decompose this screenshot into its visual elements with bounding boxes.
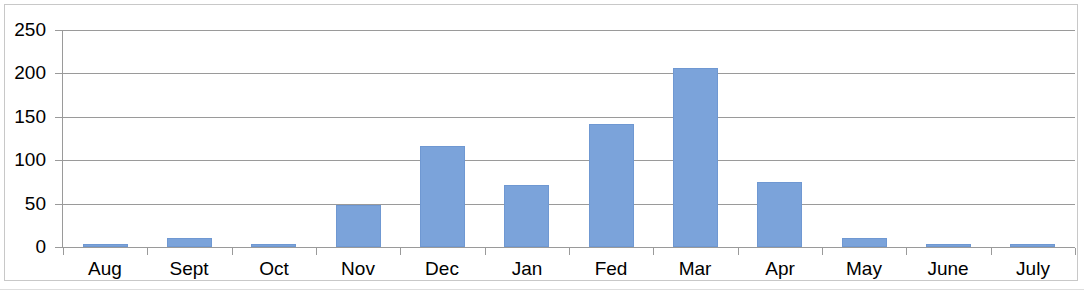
- bar-sept: [167, 238, 212, 247]
- x-axis-tick-7: [738, 248, 739, 255]
- x-axis-label-apr: Apr: [738, 258, 822, 280]
- x-axis-tick-5: [569, 248, 570, 255]
- x-axis-label-aug: Aug: [63, 258, 147, 280]
- x-axis-label-fed: Fed: [569, 258, 653, 280]
- x-axis-tick-6: [653, 248, 654, 255]
- x-axis-label-sept: Sept: [147, 258, 231, 280]
- x-axis-tick-0: [147, 248, 148, 255]
- x-axis-tick-2: [316, 248, 317, 255]
- x-axis-label-dec: Dec: [400, 258, 484, 280]
- bar-dec: [420, 146, 465, 247]
- y-axis-label-200: 200: [0, 63, 46, 82]
- x-axis-tick-9: [906, 248, 907, 255]
- x-axis-tick-1: [232, 248, 233, 255]
- y-axis-label-0: 0: [0, 237, 46, 256]
- x-axis-tick-origin: [63, 248, 64, 255]
- figure-bottom-edge: [0, 289, 1084, 290]
- bar-apr: [757, 182, 802, 247]
- bar-may: [842, 238, 887, 247]
- x-axis-tick-3: [400, 248, 401, 255]
- bar-chart-figure: 050100150200250 AugSeptOctNovDecJanFedMa…: [0, 0, 1084, 295]
- x-axis-label-july: July: [991, 258, 1075, 280]
- y-axis-label-250: 250: [0, 20, 46, 39]
- x-axis-label-june: June: [906, 258, 990, 280]
- bar-nov: [336, 205, 381, 247]
- bar-mar: [673, 68, 718, 247]
- bar-jan: [504, 185, 549, 247]
- x-axis-label-mar: Mar: [653, 258, 737, 280]
- y-axis-label-50: 50: [0, 194, 46, 213]
- bars-group: [63, 30, 1075, 247]
- x-axis-tick-11: [1075, 248, 1076, 255]
- x-axis-label-oct: Oct: [232, 258, 316, 280]
- x-axis-tick-8: [822, 248, 823, 255]
- x-axis-tick-4: [485, 248, 486, 255]
- x-axis-label-jan: Jan: [485, 258, 569, 280]
- y-axis-label-150: 150: [0, 107, 46, 126]
- x-axis-label-nov: Nov: [316, 258, 400, 280]
- y-axis-label-100: 100: [0, 150, 46, 169]
- bar-fed: [589, 124, 634, 247]
- x-axis-tick-10: [991, 248, 992, 255]
- x-axis-label-may: May: [822, 258, 906, 280]
